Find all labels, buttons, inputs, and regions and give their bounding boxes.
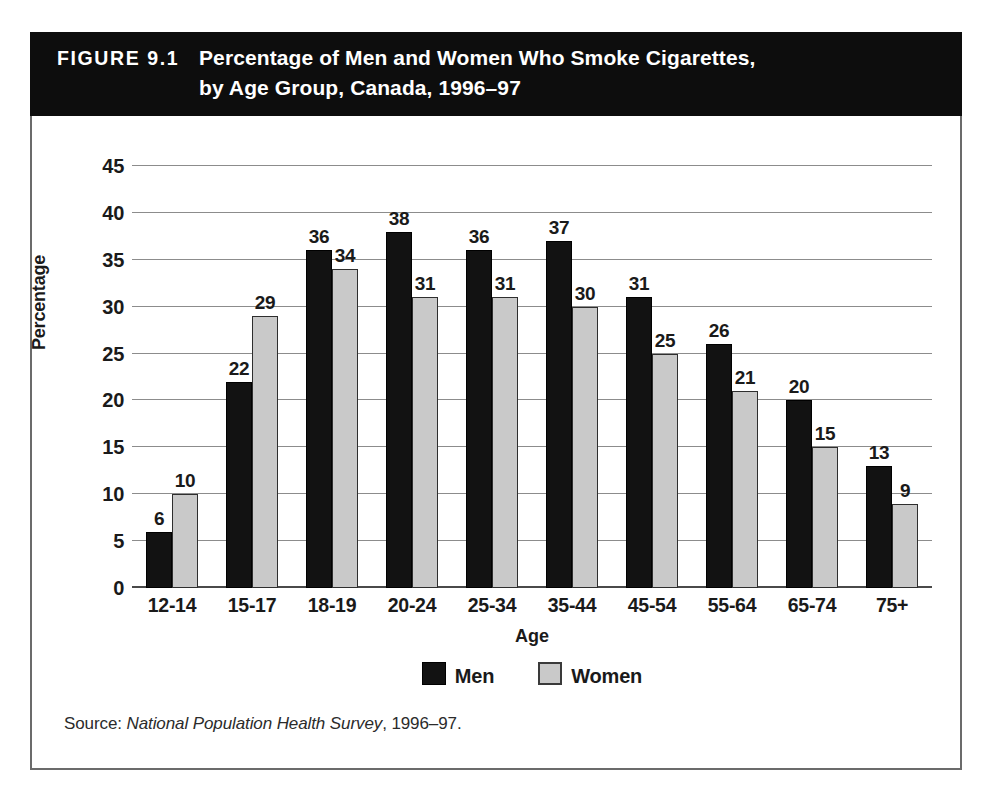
x-tick-label: 12-14 (132, 594, 212, 617)
bar-women-65-74: 15 (812, 447, 838, 588)
bar-men-18-19: 36 (306, 250, 332, 588)
source-suffix: , 1996–97. (382, 714, 461, 733)
plot-canvas: 61022293634383136313730312526212015139 (132, 166, 932, 588)
bar-value-label: 15 (802, 423, 848, 445)
bar-value-label: 30 (562, 283, 608, 305)
x-axis-tick-labels: 12-1415-1718-1920-2425-3435-4445-5455-64… (132, 594, 932, 622)
bar-value-label: 34 (322, 245, 368, 267)
bar-women-12-14: 10 (172, 494, 198, 588)
y-tick-label: 0 (90, 577, 124, 600)
y-axis-tick-labels: 051015202530354045 (84, 166, 124, 588)
bar-group: 3730 (546, 166, 598, 588)
figure-title-line-2: by Age Group, Canada, 1996–97 (199, 76, 521, 99)
y-axis-title: Percentage (29, 255, 50, 350)
bar-value-label: 21 (722, 367, 768, 389)
bar-men-15-17: 22 (226, 382, 252, 588)
source-note: Source: National Population Health Surve… (64, 714, 462, 734)
x-axis-title: Age (132, 626, 932, 647)
bar-women-18-19: 34 (332, 269, 358, 588)
bar-value-label: 36 (456, 226, 502, 248)
y-tick-label: 15 (90, 436, 124, 459)
bar-value-label: 20 (776, 376, 822, 398)
bar-group: 139 (866, 166, 918, 588)
legend-label: Women (571, 665, 642, 688)
bar-value-label: 31 (616, 273, 662, 295)
bar-value-label: 37 (536, 217, 582, 239)
legend-swatch-men (422, 662, 446, 685)
bar-women-75+: 9 (892, 504, 918, 588)
bar-group: 2229 (226, 166, 278, 588)
bar-group: 3831 (386, 166, 438, 588)
x-tick-label: 18-19 (292, 594, 372, 617)
bar-group: 3631 (466, 166, 518, 588)
y-tick-label: 40 (90, 201, 124, 224)
legend-item-men: Men (422, 662, 494, 688)
source-prefix: Source: (64, 714, 122, 733)
x-tick-label: 20-24 (372, 594, 452, 617)
bar-men-25-34: 36 (466, 250, 492, 588)
source-publication: National Population Health Survey (127, 714, 383, 733)
legend-item-women: Women (538, 662, 642, 688)
y-tick-label: 45 (90, 155, 124, 178)
bar-group: 2015 (786, 166, 838, 588)
bar-women-45-54: 25 (652, 354, 678, 588)
bar-value-label: 31 (402, 273, 448, 295)
figure-title-line-1: Percentage of Men and Women Who Smoke Ci… (199, 46, 755, 69)
bar-value-label: 13 (856, 442, 902, 464)
x-tick-label: 25-34 (452, 594, 532, 617)
bar-group: 2621 (706, 166, 758, 588)
bar-value-label: 29 (242, 292, 288, 314)
figure-header-inner: FIGURE 9.1Percentage of Men and Women Wh… (57, 43, 952, 103)
bar-men-12-14: 6 (146, 532, 172, 588)
bar-women-20-24: 31 (412, 297, 438, 588)
bar-value-label: 31 (482, 273, 528, 295)
y-tick-label: 10 (90, 483, 124, 506)
y-tick-label: 20 (90, 389, 124, 412)
bar-value-label: 26 (696, 320, 742, 342)
x-tick-label: 75+ (852, 594, 932, 617)
y-tick-label: 5 (90, 530, 124, 553)
bar-group: 610 (146, 166, 198, 588)
x-tick-label: 15-17 (212, 594, 292, 617)
x-tick-label: 35-44 (532, 594, 612, 617)
bar-value-label: 25 (642, 330, 688, 352)
y-tick-label: 25 (90, 342, 124, 365)
x-tick-label: 45-54 (612, 594, 692, 617)
chart-plot-region: Percentage 051015202530354045 6102229363… (32, 118, 930, 768)
bar-women-25-34: 31 (492, 297, 518, 588)
bar-group: 3634 (306, 166, 358, 588)
figure-number-label: FIGURE 9.1 (57, 43, 199, 73)
figure-header-bar: FIGURE 9.1Percentage of Men and Women Wh… (30, 32, 962, 116)
bar-value-label: 10 (162, 470, 208, 492)
x-tick-label: 55-64 (692, 594, 772, 617)
y-tick-label: 35 (90, 248, 124, 271)
bar-group: 3125 (626, 166, 678, 588)
y-tick-label: 30 (90, 295, 124, 318)
chart-legend: MenWomen (132, 662, 932, 688)
bar-women-55-64: 21 (732, 391, 758, 588)
x-tick-label: 65-74 (772, 594, 852, 617)
legend-label: Men (455, 665, 494, 688)
legend-swatch-women (538, 662, 562, 685)
bar-value-label: 38 (376, 208, 422, 230)
figure-title: Percentage of Men and Women Who Smoke Ci… (199, 43, 919, 103)
bar-women-15-17: 29 (252, 316, 278, 588)
bar-value-label: 9 (882, 480, 928, 502)
bar-women-35-44: 30 (572, 307, 598, 588)
